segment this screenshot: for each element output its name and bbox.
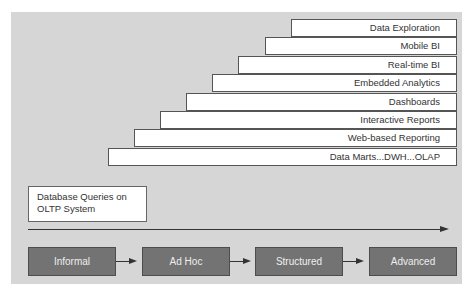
database-queries-box: Database Queries on OLTP System: [28, 186, 147, 222]
step-embedded-analytics: Embedded Analytics: [212, 74, 457, 92]
step-dashboards: Dashboards: [186, 93, 457, 111]
step-real-time-bi: Real-time BI: [238, 56, 457, 74]
timeline-arrow-line: [28, 229, 444, 230]
stage-informal: Informal: [28, 247, 116, 276]
database-queries-line1: Database Queries on: [37, 191, 138, 203]
arrow-right-icon: [440, 226, 449, 232]
arrow-right-icon: [243, 258, 251, 264]
stage-advanced: Advanced: [369, 247, 457, 276]
stage-structured: Structured: [255, 247, 343, 276]
step-mobile-bi: Mobile BI: [265, 37, 457, 55]
step-web-based-reporting: Web-based Reporting: [134, 129, 457, 147]
step-interactive-reports: Interactive Reports: [160, 111, 457, 129]
arrow-right-icon: [129, 258, 137, 264]
step-data-exploration: Data Exploration: [291, 19, 457, 37]
step-data-marts-dwh-olap: Data Marts...DWH...OLAP: [108, 148, 457, 166]
stage-ad-hoc: Ad Hoc: [142, 247, 230, 276]
arrow-right-icon: [356, 258, 364, 264]
database-queries-line2: OLTP System: [37, 203, 138, 215]
